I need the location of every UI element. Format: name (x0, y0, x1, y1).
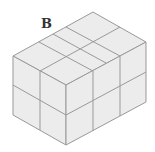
cube-stack-diagram (0, 0, 155, 152)
